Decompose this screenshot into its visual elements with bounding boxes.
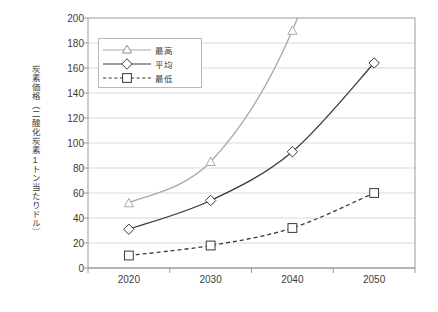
- legend-item-max: 最高: [99, 43, 201, 57]
- chart-legend: 最高 平均 最低: [98, 38, 202, 88]
- legend-symbol-square-icon: [99, 71, 155, 85]
- series-line: [129, 0, 374, 203]
- marker-square: [370, 189, 379, 198]
- x-axis-ticks: [88, 268, 415, 273]
- legend-label-avg: 平均: [155, 58, 173, 70]
- marker-square: [124, 251, 133, 260]
- x-tick-label: 2050: [351, 274, 397, 285]
- legend-item-avg: 平均: [99, 57, 201, 71]
- marker-triangle: [288, 26, 297, 34]
- legend-symbol-triangle-icon: [99, 43, 155, 57]
- marker-triangle: [124, 198, 133, 206]
- x-tick-label: 2030: [188, 274, 234, 285]
- x-tick-label: 2020: [106, 274, 152, 285]
- series-square: [124, 189, 378, 260]
- series-line: [129, 193, 374, 256]
- series-triangle: [124, 0, 374, 207]
- legend-label-max: 最高: [155, 44, 173, 56]
- marker-square: [288, 224, 297, 233]
- line-chart: 炭素価格（二酸化炭素1トン当たりドル） 02040608010012014016…: [0, 0, 438, 312]
- marker-square: [206, 241, 215, 250]
- marker-diamond: [205, 195, 215, 205]
- legend-item-min: 最低: [99, 71, 201, 85]
- legend-label-min: 最低: [155, 72, 173, 84]
- marker-diamond: [124, 224, 134, 234]
- x-tick-label: 2040: [269, 274, 315, 285]
- plot-area: [0, 0, 438, 312]
- legend-symbol-diamond-icon: [99, 57, 155, 71]
